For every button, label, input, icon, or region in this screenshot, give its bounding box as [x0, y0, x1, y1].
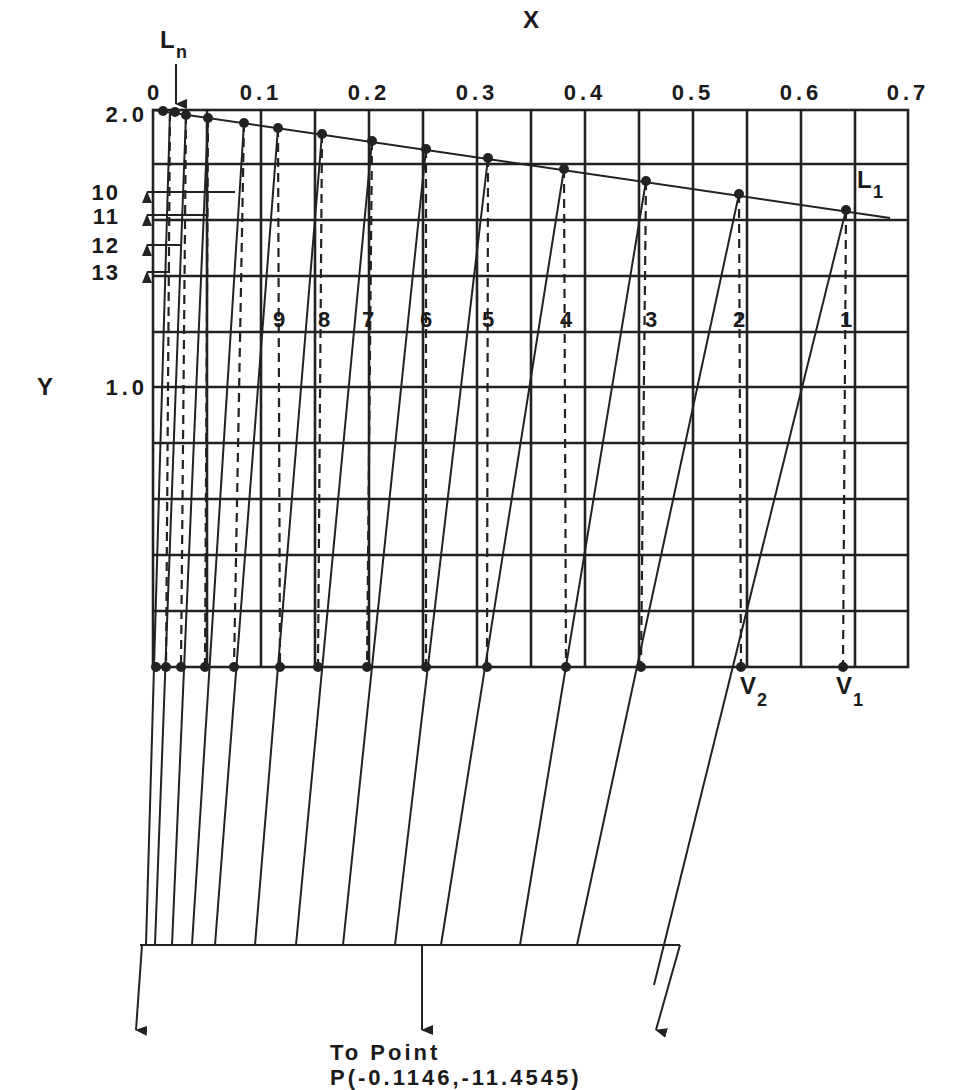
svg-text:0.4: 0.4: [564, 80, 607, 105]
svg-text:1: 1: [873, 182, 883, 202]
svg-text:2: 2: [757, 690, 767, 710]
svg-text:0.1: 0.1: [240, 80, 283, 105]
svg-text:0.6: 0.6: [780, 80, 823, 105]
stage-construction-diagram: X Y 0 0.1 0.2 0.3 0.4 0.5 0.6 0.7 2.0 1.…: [0, 0, 969, 1090]
svg-text:11: 11: [93, 204, 120, 229]
svg-text:L: L: [857, 166, 872, 193]
grid: [153, 110, 908, 667]
svg-text:6: 6: [420, 307, 432, 332]
l1-label: L 1: [857, 166, 883, 202]
svg-text:2.0: 2.0: [105, 102, 148, 127]
svg-text:2: 2: [733, 307, 745, 332]
svg-text:13: 13: [92, 260, 120, 285]
svg-text:4: 4: [560, 307, 573, 332]
svg-text:10: 10: [92, 180, 120, 205]
stage-labels: 1 2 3 4 5 6 7 8 9: [273, 307, 852, 332]
svg-text:5: 5: [482, 307, 494, 332]
ln-label: L n: [160, 26, 187, 62]
v2-label: V 2: [740, 672, 767, 710]
svg-text:7: 7: [362, 307, 374, 332]
svg-text:0.2: 0.2: [348, 80, 391, 105]
svg-text:0.7: 0.7: [887, 80, 930, 105]
extra-stage-labels: 10 11 12 13: [92, 180, 120, 285]
tie-lines: [166, 112, 846, 667]
svg-text:V: V: [836, 672, 852, 699]
svg-text:L: L: [160, 26, 175, 53]
svg-text:1: 1: [840, 307, 852, 332]
svg-text:8: 8: [318, 307, 330, 332]
svg-text:1: 1: [853, 690, 863, 710]
svg-text:9: 9: [273, 307, 285, 332]
x-tick-labels: 0 0.1 0.2 0.3 0.4 0.5 0.6 0.7: [147, 80, 929, 105]
y-axis-label: Y: [37, 373, 53, 400]
svg-text:0: 0: [147, 80, 159, 105]
caption-point-p: P(-0.1146,-11.4545): [330, 1065, 581, 1090]
caption-to-point: To Point: [330, 1040, 440, 1065]
svg-text:V: V: [740, 672, 756, 699]
svg-text:1.0: 1.0: [105, 375, 148, 400]
stage-arrows: [147, 192, 235, 272]
svg-text:3: 3: [645, 307, 657, 332]
v1-label: V 1: [836, 672, 863, 710]
svg-text:12: 12: [92, 233, 120, 258]
svg-text:0.5: 0.5: [672, 80, 715, 105]
svg-text:n: n: [176, 42, 187, 62]
x-axis-label: X: [523, 6, 539, 33]
svg-text:0.3: 0.3: [456, 80, 499, 105]
